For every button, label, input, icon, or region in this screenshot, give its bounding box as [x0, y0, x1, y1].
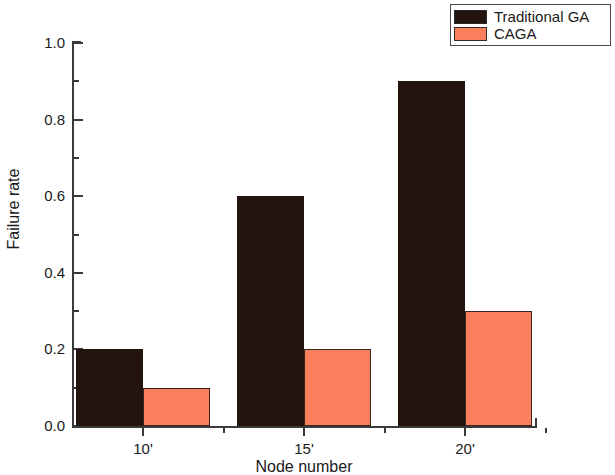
bar-caga	[143, 388, 210, 426]
plot-area	[73, 43, 535, 426]
bar-caga	[465, 311, 532, 426]
y-axis-title: Failure rate	[5, 109, 23, 309]
x-axis-tick-label: 15'	[274, 441, 334, 457]
bar-caga	[304, 349, 371, 426]
legend-entry-caga: CAGA	[454, 25, 606, 42]
y-axis-tick-label: 0.2	[25, 341, 65, 356]
y-axis-tick-label: 0.4	[25, 265, 65, 280]
x-axis-major-tick	[303, 428, 305, 436]
x-axis-title: Node number	[73, 458, 535, 475]
x-axis-minor-tick	[384, 428, 386, 433]
x-axis-tick-label: 20'	[435, 441, 495, 457]
y-axis-tick-label: 1.0	[25, 35, 65, 50]
x-axis-minor-tick	[545, 428, 547, 433]
bar-traditional-ga	[237, 196, 304, 426]
y-axis-tick-label: 0.6	[25, 188, 65, 203]
x-axis-right-cap	[535, 418, 537, 428]
legend-label-traditional-ga: Traditional GA	[494, 9, 589, 25]
y-axis-tick-labels: 0.00.20.40.60.81.0	[20, 0, 65, 475]
x-axis-tick-label: 10'	[113, 441, 173, 457]
x-axis-minor-tick	[223, 428, 225, 433]
y-axis-tick-label: 0.8	[25, 112, 65, 127]
bar-traditional-ga	[76, 349, 143, 426]
bar-traditional-ga	[398, 81, 465, 426]
x-axis-major-tick	[142, 428, 144, 436]
legend-entry-traditional-ga: Traditional GA	[454, 8, 606, 25]
legend-swatch-caga	[454, 27, 487, 41]
chart-legend: Traditional GA CAGA	[450, 4, 611, 46]
legend-label-caga: CAGA	[494, 26, 537, 42]
x-axis-major-tick	[464, 428, 466, 436]
legend-swatch-traditional-ga	[454, 10, 487, 24]
bar-chart-figure: Traditional GA CAGA 0.00.20.40.60.81.0 1…	[0, 0, 615, 475]
y-axis-tick-label: 0.0	[25, 418, 65, 433]
